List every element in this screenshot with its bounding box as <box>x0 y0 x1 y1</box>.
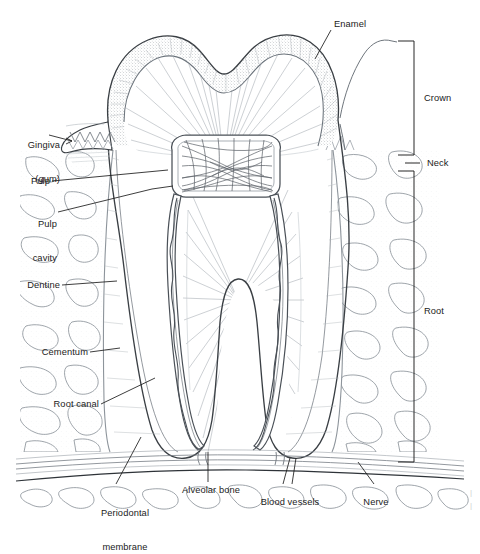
label-pulp: Pulp <box>2 176 50 187</box>
label-pulp-cavity-line1: Pulp <box>2 219 57 230</box>
label-pulp-cavity-line2: cavity <box>2 253 57 264</box>
label-periodontal-membrane: Periodontal membrane <box>82 485 168 554</box>
label-root: Root <box>424 306 444 317</box>
label-crown: Crown <box>424 93 451 104</box>
label-gingiva-line1: Gingiva <box>2 140 60 151</box>
page-edge-artifact: || <box>470 486 480 520</box>
alveolar-bone-right <box>330 140 450 470</box>
label-nerve: Nerve <box>354 497 398 508</box>
label-periodontal-line2: membrane <box>82 542 168 553</box>
label-cementum: Cementum <box>2 347 88 358</box>
label-enamel: Enamel <box>334 19 366 30</box>
label-periodontal-line1: Periodontal <box>82 508 168 519</box>
label-neck: Neck <box>427 158 449 169</box>
label-pulp-cavity: Pulp cavity <box>2 196 57 276</box>
label-root-canal: Root canal <box>2 399 99 410</box>
label-blood-vessels: Blood vessels <box>255 497 325 508</box>
label-alveolar-bone: Alveolar bone <box>176 485 246 496</box>
label-dentine: Dentine <box>2 280 60 291</box>
